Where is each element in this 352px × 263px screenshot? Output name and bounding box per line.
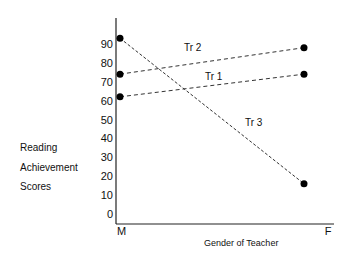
data-point [117,71,124,78]
y-tick-label: 70 [101,76,113,88]
data-point [301,71,308,78]
chart: 0102030405060708090MFTr 1Tr 2Tr 3 [0,0,352,263]
data-point [117,35,124,42]
series-label: Tr 1 [205,71,223,82]
data-point [301,44,308,51]
y-tick-label: 60 [101,95,113,107]
y-tick-label: 80 [101,57,113,69]
y-tick-label: 10 [101,189,113,201]
y-tick-label: 0 [107,208,113,220]
data-point [301,180,308,187]
series-line [120,38,304,184]
series-label: Tr 2 [184,42,202,53]
x-tick-label: F [325,225,332,237]
x-tick-label: M [117,225,126,237]
y-tick-label: 20 [101,170,113,182]
y-tick-label: 50 [101,114,113,126]
series-label: Tr 3 [245,117,263,128]
data-point [117,93,124,100]
y-tick-label: 90 [101,38,113,50]
y-tick-label: 40 [101,132,113,144]
y-tick-label: 30 [101,151,113,163]
